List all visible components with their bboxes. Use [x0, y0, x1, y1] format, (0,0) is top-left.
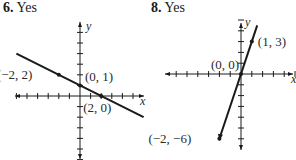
- graph-6-point-label: (−2, 2): [0, 67, 32, 82]
- graph-8-point: [239, 72, 243, 76]
- graph-8-point-label: (0, 0): [211, 57, 239, 72]
- graph-8-y-arrow-down-icon: [239, 145, 243, 150]
- graphs-canvas: xy(−2, 2)(0, 1)(2, 0)xy(1, 3)(0, 0)(−2, …: [0, 0, 296, 160]
- graph-8-point: [250, 40, 254, 44]
- graph-6-x-arrow-left-icon: [15, 94, 20, 98]
- graph-8-point: [217, 137, 221, 141]
- graph-8-x-arrow-left-icon: [165, 72, 170, 76]
- graph-6-y-axis-label: y: [85, 19, 92, 33]
- graph-6-point: [57, 73, 61, 77]
- graph-8-x-axis-label: x: [290, 72, 296, 86]
- graph-6-point-label: (2, 0): [83, 100, 111, 115]
- graph-6-point: [99, 94, 103, 98]
- graph-8-y-arrow-up-icon: [239, 23, 243, 28]
- graph-8-point-label: (−2, −6): [148, 131, 191, 146]
- graph-6-point: [78, 83, 82, 87]
- graph-6-y-arrow-up-icon: [78, 22, 82, 27]
- graph-8-point-label: (1, 3): [258, 34, 286, 49]
- graph-6-y-arrow-down-icon: [78, 154, 82, 159]
- graph-6-x-axis-label: x: [139, 94, 146, 108]
- graph-8-y-axis-label: y: [244, 15, 251, 29]
- graph-6-point-label: (0, 1): [85, 69, 113, 84]
